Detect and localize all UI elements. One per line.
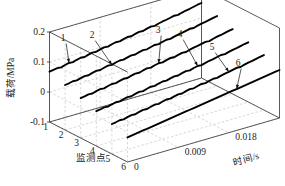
- load-vs-monitoring-point-time-3d-chart: 123456 0.20.10-0.112345600.0090.0180.027…: [0, 0, 285, 186]
- data-curve-4: [96, 42, 248, 111]
- y-tick-label-1: 0.1: [33, 57, 45, 67]
- y-tick-label-0: 0.2: [33, 27, 45, 37]
- z-tick-label-2: 0.018: [235, 132, 257, 142]
- y-axis-title: 载荷/MPa: [5, 57, 16, 98]
- data-curve-3: [81, 29, 233, 98]
- data-curves-layer: [50, 3, 280, 137]
- curve-number-label-2: 2: [90, 30, 95, 40]
- x-tick-label-2: 3: [74, 138, 79, 148]
- x-tick-label-5: 6: [121, 162, 126, 172]
- z-tick-label-0: 0: [134, 162, 139, 172]
- data-curve-2: [65, 16, 217, 85]
- data-curve-6: [128, 70, 280, 137]
- x-tick-label-1: 2: [59, 130, 64, 140]
- arrowhead-4: [194, 62, 197, 66]
- curve-number-label-5: 5: [210, 42, 215, 52]
- leader-line-2: [95, 41, 112, 65]
- curve-number-label-4: 4: [178, 29, 183, 39]
- x-tick-label-4: 5: [106, 154, 111, 164]
- curve-number-label-3: 3: [156, 25, 161, 35]
- z-axis-title: 时间/s: [232, 150, 261, 168]
- curve-number-label-6: 6: [236, 58, 241, 68]
- data-curve-5: [112, 55, 264, 124]
- arrowhead-2: [108, 60, 112, 64]
- x-tick-label-0: 1: [43, 122, 48, 132]
- arrowhead-5: [225, 68, 229, 72]
- z-tick-label-1: 0.009: [185, 147, 207, 157]
- y-tick-label-2: 0: [40, 87, 45, 97]
- x-axis-title: 监测点: [76, 152, 106, 163]
- curve-number-label-1: 1: [61, 33, 66, 43]
